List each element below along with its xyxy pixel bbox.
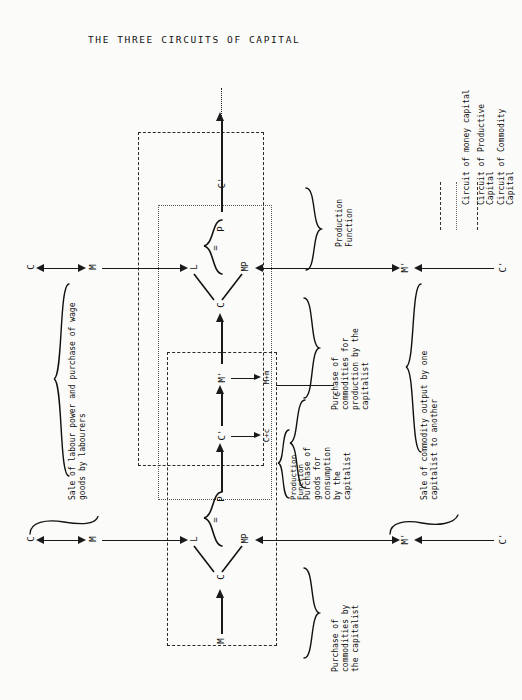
node-top-M-left: M — [88, 261, 98, 274]
label-purchase-production-bot-line1: Purchase of — [331, 619, 341, 672]
arrowhead-mid-Mplusm — [254, 374, 261, 380]
diagonals-bot-C-to-L-MP — [188, 544, 248, 576]
arrowhead-bot-into-MP — [255, 536, 263, 544]
legend-label-commodity-capital-line2: Capital — [506, 171, 516, 205]
arrowhead-top-into-MP — [255, 264, 263, 272]
page-title: THE THREE CIRCUITS OF CAPITAL — [88, 34, 300, 45]
node-mid-Cplusc: C+c — [262, 428, 271, 444]
arrowhead-mid-up-C — [216, 313, 224, 322]
label-purchase-production-top-line4: capitalist — [361, 362, 371, 410]
edge-mid-Cprime-to-Mprime — [221, 392, 223, 426]
label-purchase-production-top-line3: production by the — [351, 328, 361, 410]
arrowhead-bot-right-Mprime — [392, 536, 400, 544]
edge-top-dotted-continuation — [221, 88, 222, 122]
label-sale-commodity-line1: Sale of commodity output by one — [420, 351, 430, 500]
arrowhead-top-left-C — [36, 264, 44, 272]
arrowhead-bot-left-C — [36, 536, 44, 544]
label-purchase-production-bot-line3: the capitalist — [351, 605, 361, 672]
node-top-P: P — [216, 223, 226, 235]
node-mid-Mprime: M' — [217, 370, 227, 384]
node-bot-M: M — [216, 635, 226, 647]
node-mid-Mplusm: M+m — [262, 370, 271, 386]
arrowhead-top-left-M — [78, 264, 86, 272]
arrowhead-mid-up-Mprime — [216, 385, 224, 394]
diagonals-top-C-to-L-MP — [188, 272, 248, 304]
arrowhead-mid-Cplusc — [254, 432, 261, 438]
label-purchase-consumption-line5: capitalist — [343, 452, 353, 500]
arrowhead-top-into-L — [180, 264, 188, 272]
arrowhead-top-up-Cprime — [216, 112, 224, 121]
node-top-Cprime-right: C' — [498, 260, 508, 274]
node-top-C-left: C — [26, 261, 36, 273]
label-purchase-production-bot-line2: commodities by — [341, 605, 351, 672]
arrowhead-bot-Cprime-left — [414, 536, 422, 544]
brace-bot-Mprime-hook — [388, 514, 460, 536]
brace-bot-C-M-hook — [28, 516, 100, 536]
label-sale-labour-line1: Sale of labour power and purchase of wag… — [68, 303, 78, 500]
arrowhead-top-right-Mprime — [392, 264, 400, 272]
node-bot-Cprime-right: C' — [498, 532, 508, 546]
edge-bot-Mprime-to-MP — [262, 540, 397, 541]
arrowhead-mid-up-Cprime — [216, 443, 224, 452]
node-bot-equals: = — [210, 517, 220, 522]
edge-bot-M-to-C — [221, 596, 223, 634]
legend-swatch-commodity-capital — [477, 182, 478, 230]
label-purchase-consumption-line4: by the — [333, 471, 343, 500]
brace-purchase-production-bot — [300, 566, 322, 660]
node-mid-Cprime: C' — [217, 428, 227, 442]
legend-label-money-capital: Circuit of money capital — [462, 89, 472, 205]
legend-swatch-money-capital — [440, 182, 441, 230]
label-purchase-consumption-line2: goods for — [313, 457, 323, 500]
label-purchase-consumption-line3: consumption — [323, 447, 333, 500]
brace-purchase-production-top — [300, 296, 322, 400]
edge-top-P-to-Cprime — [221, 120, 223, 212]
node-top-Mprime: M' — [400, 260, 410, 274]
edge-mid-P-to-Cprime — [221, 450, 223, 492]
label-production-function-line1: Production — [335, 199, 345, 247]
edge-top-M-to-L — [102, 268, 182, 269]
legend-swatch-productive-capital — [456, 182, 457, 230]
label-production-function-2-line2: Function — [296, 464, 306, 500]
label-sale-commodity-line2: capitalist to another — [430, 399, 440, 500]
brace-production-function — [302, 186, 324, 272]
node-top-Cprime: C' — [217, 176, 227, 190]
arrowhead-bot-left-M — [78, 536, 86, 544]
edge-top-Mprime-to-MP — [262, 268, 397, 269]
arrowhead-bot-up-C — [216, 589, 224, 598]
edge-mid-Mprime-to-C — [221, 320, 223, 364]
diagram-canvas: THE THREE CIRCUITS OF CAPITAL Circuit of… — [0, 0, 522, 700]
legend-label-productive-capital-line2: Capital — [486, 171, 496, 205]
arrowhead-bot-into-L — [180, 536, 188, 544]
label-sale-labour-line2: goods by labourers — [78, 413, 88, 500]
node-top-equals: = — [210, 245, 220, 250]
arrowhead-top-Cprime-left — [414, 264, 422, 272]
edge-bot-Cprime-to-Mprime — [418, 540, 494, 541]
label-purchase-production-top-line2: commodities for — [341, 338, 351, 410]
label-production-function-line2: Function — [345, 208, 355, 247]
edge-bot-M-to-L — [102, 540, 182, 541]
edge-top-Cprime-to-Mprime — [418, 268, 494, 269]
label-purchase-production-top-line1: Purchase of — [331, 357, 341, 410]
